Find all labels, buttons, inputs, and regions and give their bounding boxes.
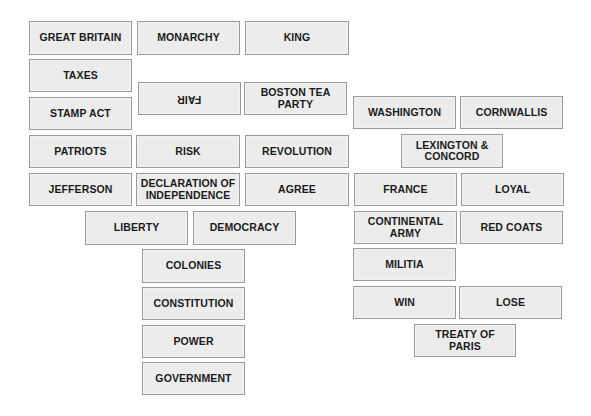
card-label: TREATY OF PARIS: [415, 329, 515, 352]
card-label: LOSE: [493, 297, 528, 309]
card-fair[interactable]: FAIR: [138, 82, 241, 115]
card-liberty[interactable]: LIBERTY: [85, 211, 188, 245]
card-label: KING: [281, 32, 314, 44]
card-lose[interactable]: LOSE: [459, 286, 562, 319]
card-france[interactable]: FRANCE: [354, 173, 457, 206]
card-loyal[interactable]: LOYAL: [461, 173, 564, 206]
card-label: BOSTON TEA PARTY: [258, 87, 334, 110]
card-washington[interactable]: WASHINGTON: [353, 96, 456, 129]
card-label: REVOLUTION: [259, 146, 335, 158]
card-label: AGREE: [275, 184, 319, 196]
card-label: WIN: [391, 297, 418, 309]
card-great-britain[interactable]: GREAT BRITAIN: [29, 21, 132, 55]
card-label: CORNWALLIS: [473, 107, 551, 119]
card-label: MONARCHY: [154, 32, 223, 44]
card-label: GOVERNMENT: [152, 373, 234, 385]
card-label: PATRIOTS: [51, 146, 109, 158]
card-label: FRANCE: [380, 184, 430, 196]
card-label: COLONIES: [163, 260, 225, 272]
card-king[interactable]: KING: [245, 21, 349, 55]
card-militia[interactable]: MILITIA: [353, 248, 456, 281]
card-red-coats[interactable]: RED COATS: [460, 211, 563, 244]
card-label: GREAT BRITAIN: [37, 32, 125, 44]
card-label: TAXES: [60, 70, 101, 82]
card-treaty-of-paris[interactable]: TREATY OF PARIS: [414, 324, 516, 357]
card-jefferson[interactable]: JEFFERSON: [29, 173, 132, 206]
card-label: CONTINENTAL ARMY: [365, 216, 447, 239]
card-monarchy[interactable]: MONARCHY: [137, 21, 240, 55]
card-power[interactable]: POWER: [142, 325, 245, 358]
card-patriots[interactable]: PATRIOTS: [29, 135, 132, 168]
word-card-board: GREAT BRITAIN MONARCHY KING TAXES FAIR B…: [0, 0, 591, 416]
card-democracy[interactable]: DEMOCRACY: [193, 211, 296, 245]
card-label: LIBERTY: [111, 222, 163, 234]
card-declaration-of-independence[interactable]: DECLARATION OF INDEPENDENCE: [136, 173, 240, 206]
card-boston-tea-party[interactable]: BOSTON TEA PARTY: [244, 82, 347, 115]
card-revolution[interactable]: REVOLUTION: [245, 135, 349, 168]
card-colonies[interactable]: COLONIES: [142, 249, 245, 283]
card-label: LOYAL: [492, 184, 533, 196]
card-cornwallis[interactable]: CORNWALLIS: [460, 96, 563, 129]
card-label: CONSTITUTION: [151, 298, 237, 310]
card-label: LEXINGTON & CONCORD: [413, 140, 492, 163]
card-win[interactable]: WIN: [353, 286, 456, 319]
card-label: DEMOCRACY: [207, 222, 283, 234]
card-label: RED COATS: [478, 222, 546, 234]
card-government[interactable]: GOVERNMENT: [142, 362, 245, 395]
card-lexington-concord[interactable]: LEXINGTON & CONCORD: [401, 134, 503, 168]
card-label: DECLARATION OF INDEPENDENCE: [138, 178, 239, 201]
card-label: WASHINGTON: [365, 107, 444, 119]
card-taxes[interactable]: TAXES: [29, 59, 132, 92]
card-label: RISK: [172, 146, 204, 158]
card-constitution[interactable]: CONSTITUTION: [142, 287, 245, 320]
card-continental-army[interactable]: CONTINENTAL ARMY: [354, 211, 457, 244]
card-label: MILITIA: [382, 259, 427, 271]
card-label: POWER: [170, 336, 216, 348]
card-stamp-act[interactable]: STAMP ACT: [29, 97, 132, 130]
card-label: JEFFERSON: [46, 184, 116, 196]
card-risk[interactable]: RISK: [136, 135, 240, 168]
card-agree[interactable]: AGREE: [245, 173, 349, 206]
card-label: FAIR: [174, 93, 204, 105]
card-label: STAMP ACT: [47, 108, 114, 120]
